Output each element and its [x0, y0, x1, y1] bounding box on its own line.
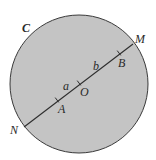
point-label-a: A: [58, 103, 65, 115]
segment-label-b: b: [93, 60, 99, 72]
point-label-o: O: [80, 86, 89, 98]
circle-diagram: C M N A O B a b: [0, 0, 156, 160]
point-label-n: N: [10, 124, 18, 136]
point-label-m: M: [135, 33, 145, 45]
segment-label-a: a: [63, 80, 69, 92]
point-label-b: B: [118, 57, 125, 69]
circle-c: [10, 15, 148, 153]
circle-label-c: C: [22, 22, 30, 34]
